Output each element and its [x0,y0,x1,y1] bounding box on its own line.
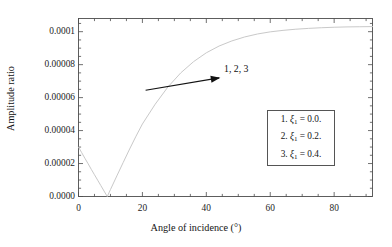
axes-frame [79,19,373,197]
y-axis-title-wrap: Amplitude ratio [2,0,18,200]
legend-entry: 2. ξ1 = 0.2. [281,129,322,147]
y-tick-label: 0.00006 [45,93,75,102]
y-tick-label: 0.00004 [45,126,75,135]
y-tick-label: 0.0000 [49,192,75,201]
x-axis-title: Angle of incidence (°) [0,222,392,233]
x-tick-label: 0 [76,204,81,213]
x-tick-label: 40 [202,204,211,213]
y-tick-label: 0.00008 [45,60,75,69]
x-tick-label: 20 [138,204,147,213]
legend-box: 1. ξ1 = 0.0.2. ξ1 = 0.2.3. ξ1 = 0.4. [267,110,335,166]
annotation-arrow-shaft [146,78,220,90]
chart-figure: 0.00000.000020.000040.000060.000080.0001… [0,0,392,247]
legend-entry: 3. ξ1 = 0.4. [281,147,322,165]
legend-entry: 1. ξ1 = 0.0. [281,112,322,130]
x-tick-label: 80 [330,204,339,213]
x-tick-label: 60 [266,204,275,213]
curve-annotation-label: 1, 2, 3 [224,63,249,74]
y-tick-label: 0.0001 [49,27,75,36]
annotation-arrow-head [210,76,220,83]
y-tick-label: 0.00002 [45,159,75,168]
y-axis-title: Amplitude ratio [5,29,16,169]
